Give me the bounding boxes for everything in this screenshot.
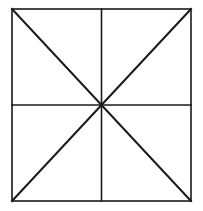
figure-canvas xyxy=(0,0,203,211)
geometric-figure xyxy=(0,0,203,211)
